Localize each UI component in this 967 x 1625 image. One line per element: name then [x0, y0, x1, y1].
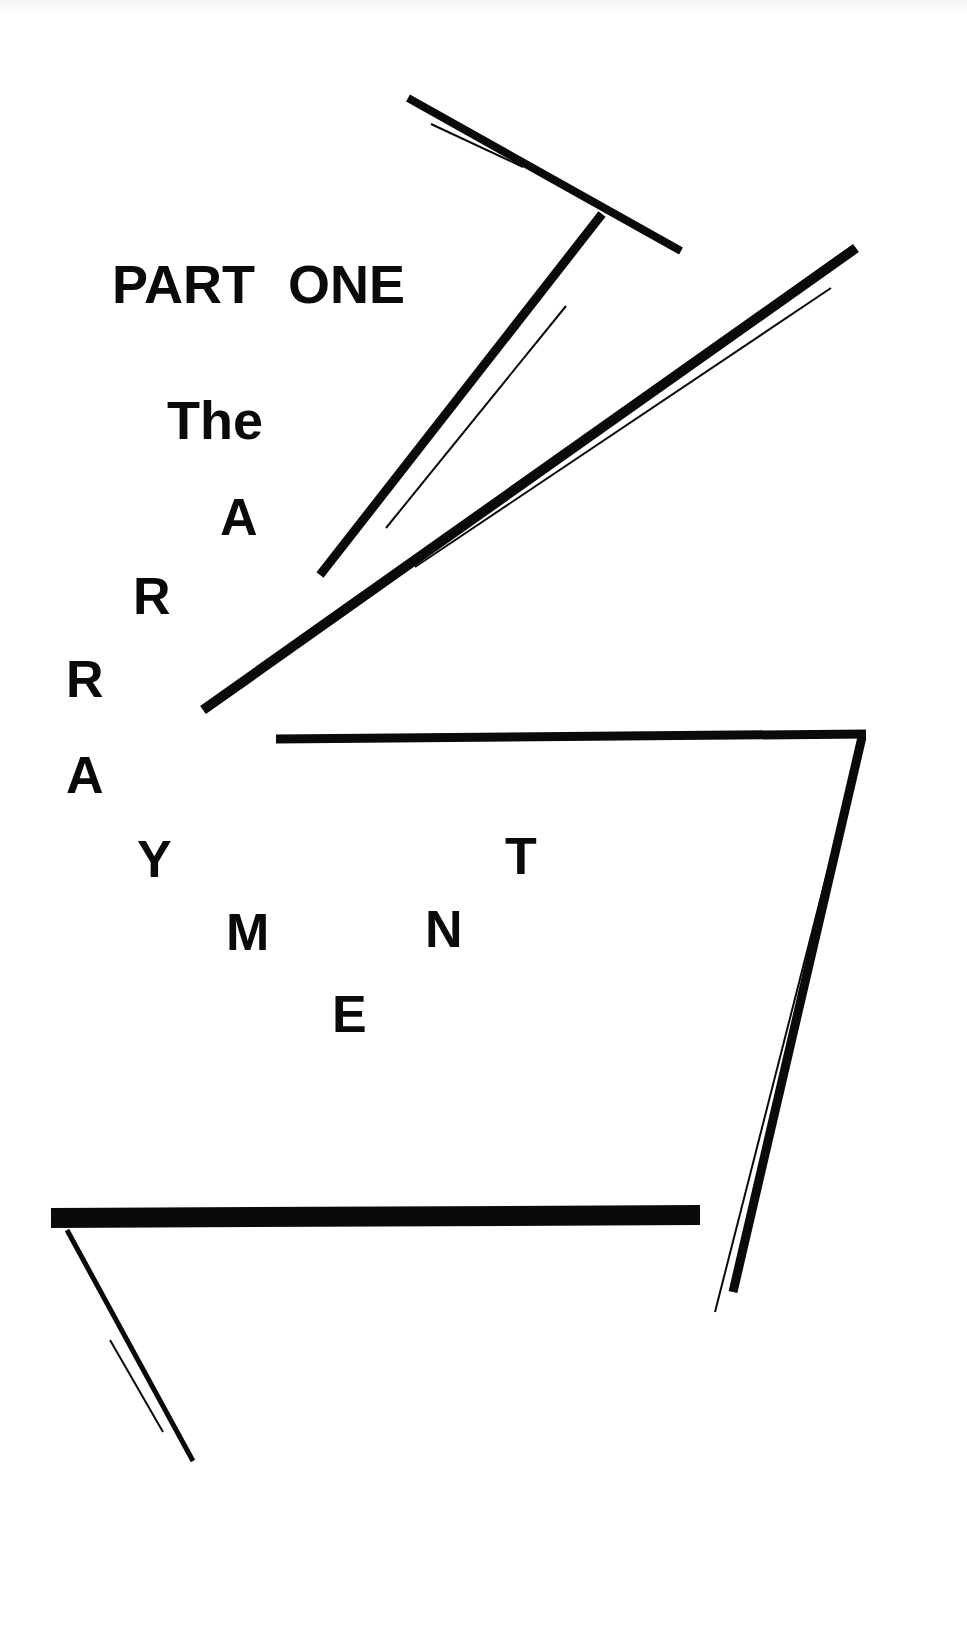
middle-bar	[276, 734, 866, 739]
top-bar-thick	[408, 98, 681, 251]
title-letter-9: T	[505, 827, 537, 885]
title-prefix: The	[167, 390, 263, 450]
book-part-title-page: PART ONE The A R R A Y M E N T	[0, 0, 967, 1625]
title-letter-6: M	[226, 903, 269, 961]
title-letter-2: R	[133, 567, 171, 625]
title-letter-1: A	[220, 488, 258, 546]
title-letter-5: Y	[137, 830, 172, 888]
bottom-bar	[51, 1215, 700, 1218]
title-letter-8: N	[425, 900, 463, 958]
top-bar-thin	[431, 124, 523, 167]
title-letter-4: A	[66, 746, 104, 804]
part-label: PART ONE	[112, 254, 405, 314]
long-diagonal-thick	[203, 248, 856, 710]
bottom-descender-thick	[67, 1230, 193, 1461]
title-letter-3: R	[66, 650, 104, 708]
title-letter-7: E	[332, 985, 367, 1043]
right-descender-thick	[733, 737, 862, 1292]
right-descender-thin	[715, 830, 838, 1312]
stem-thin	[386, 306, 566, 528]
long-diagonal-thin	[415, 288, 831, 567]
title-artwork: PART ONE The A R R A Y M E N T	[0, 0, 967, 1625]
